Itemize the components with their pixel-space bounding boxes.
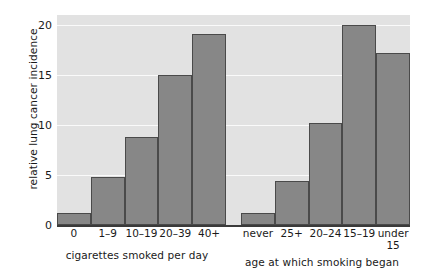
x-tick-label-0-0: 0 xyxy=(57,227,91,239)
y-axis-tick-labels: 05101520 xyxy=(26,0,52,274)
x-tick-label-1-1: 25+ xyxy=(275,227,309,239)
x-tick-label-1-0: never xyxy=(241,227,275,239)
x-tick-label-0-1: 1–9 xyxy=(91,227,125,239)
x-tick-label-1-4: under 15 xyxy=(376,227,410,251)
bar-1-3 xyxy=(342,25,376,225)
bar-chart-figure: relative lung cancer incidence 05101520 … xyxy=(0,0,423,274)
plot-area xyxy=(57,15,410,225)
x-tick-label-1-3: 15–19 xyxy=(342,227,376,239)
x-tick-label-1-2: 20–24 xyxy=(309,227,343,239)
bar-0-4 xyxy=(192,34,226,225)
y-tick-label-15: 15 xyxy=(26,69,52,82)
y-tick-label-0: 0 xyxy=(26,219,52,232)
bar-0-0 xyxy=(57,213,91,225)
x-axis-label-age: age at which smoking began xyxy=(232,256,412,268)
bar-0-2 xyxy=(125,137,159,225)
x-tick-label-0-2: 10–19 xyxy=(125,227,159,239)
y-tick-label-10: 10 xyxy=(26,119,52,132)
x-tick-label-0-4: 40+ xyxy=(192,227,226,239)
bar-1-2 xyxy=(309,123,343,225)
y-tick-label-20: 20 xyxy=(26,19,52,32)
x-axis-label-cigarettes: cigarettes smoked per day xyxy=(52,249,222,261)
y-tick-label-5: 5 xyxy=(26,169,52,182)
bar-0-3 xyxy=(158,75,192,225)
bar-1-0 xyxy=(241,213,275,225)
bar-1-1 xyxy=(275,181,309,225)
x-tick-label-0-3: 20–39 xyxy=(158,227,192,239)
bar-0-1 xyxy=(91,177,125,225)
bar-1-4 xyxy=(376,53,410,225)
